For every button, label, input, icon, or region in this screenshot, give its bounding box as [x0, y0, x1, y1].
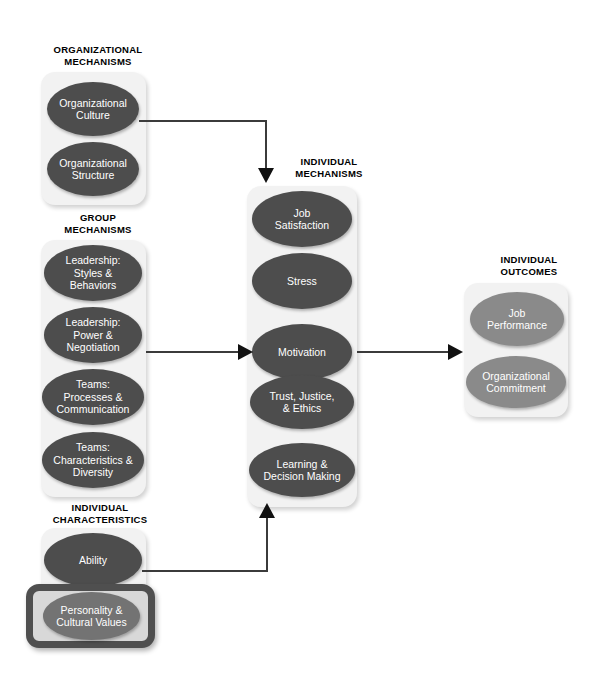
- diagram-canvas: ORGANIZATIONAL MECHANISMS Organizational…: [0, 0, 589, 684]
- node-job-satisfaction[interactable]: Job Satisfaction: [252, 191, 352, 247]
- section-label-individual-characteristics: INDIVIDUAL CHARACTERISTICS: [38, 502, 162, 526]
- node-teams-processes-communication[interactable]: Teams: Processes & Communication: [42, 369, 144, 425]
- node-label: Ability: [79, 554, 107, 567]
- node-label: Leadership: Styles & Behaviors: [66, 254, 121, 292]
- node-label: Trust, Justice, & Ethics: [270, 390, 335, 415]
- node-label: Job Satisfaction: [275, 207, 329, 232]
- node-leadership-power-negotiation[interactable]: Leadership: Power & Negotiation: [44, 307, 142, 363]
- node-label: Stress: [287, 275, 317, 288]
- node-label: Organizational Culture: [59, 97, 127, 122]
- connector-org-to-individual-horizontal: [139, 120, 267, 122]
- node-job-performance[interactable]: Job Performance: [470, 292, 564, 346]
- node-trust-justice-ethics[interactable]: Trust, Justice, & Ethics: [250, 375, 354, 429]
- connector-group-to-individual-horizontal: [146, 351, 241, 353]
- arrowhead-org-to-individual: [258, 168, 274, 183]
- node-learning-decision-making[interactable]: Learning & Decision Making: [249, 443, 355, 497]
- node-ability[interactable]: Ability: [44, 533, 142, 587]
- arrowhead-characteristics-to-individual: [259, 503, 275, 518]
- connector-characteristics-to-individual-horizontal: [142, 570, 268, 572]
- node-label: Leadership: Power & Negotiation: [66, 316, 121, 354]
- connector-characteristics-to-individual-vertical: [266, 516, 268, 571]
- node-motivation[interactable]: Motivation: [252, 324, 352, 380]
- section-label-individual-outcomes: INDIVIDUAL OUTCOMES: [478, 254, 580, 278]
- node-label: Learning & Decision Making: [263, 458, 340, 483]
- node-leadership-styles-behaviors[interactable]: Leadership: Styles & Behaviors: [44, 245, 142, 301]
- node-label: Teams: Processes & Communication: [57, 378, 130, 416]
- node-label: Motivation: [278, 346, 326, 359]
- node-label: Teams: Characteristics & Diversity: [53, 441, 132, 479]
- section-label-group-mechanisms: GROUP MECHANISMS: [38, 212, 158, 236]
- connector-org-to-individual-vertical: [265, 120, 267, 170]
- node-organizational-culture[interactable]: Organizational Culture: [47, 82, 139, 136]
- node-label: Organizational Structure: [59, 157, 127, 182]
- node-organizational-structure[interactable]: Organizational Structure: [47, 142, 139, 196]
- arrowhead-mechanisms-to-outcomes: [448, 344, 463, 360]
- node-stress[interactable]: Stress: [252, 253, 352, 309]
- node-label: Personality & Cultural Values: [56, 604, 126, 629]
- node-label: Job Performance: [487, 307, 547, 332]
- arrowhead-group-to-individual: [238, 344, 253, 360]
- node-label: Organizational Commitment: [482, 370, 550, 395]
- connector-mechanisms-to-outcomes-horizontal: [357, 351, 451, 353]
- node-personality-cultural-values[interactable]: Personality & Cultural Values: [43, 592, 140, 640]
- section-label-individual-mechanisms: INDIVIDUAL MECHANISMS: [274, 156, 384, 180]
- node-organizational-commitment[interactable]: Organizational Commitment: [466, 356, 566, 408]
- node-teams-characteristics-diversity[interactable]: Teams: Characteristics & Diversity: [42, 432, 144, 488]
- section-label-organizational-mechanisms: ORGANIZATIONAL MECHANISMS: [38, 44, 158, 68]
